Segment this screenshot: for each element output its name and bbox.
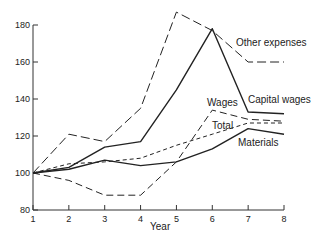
x-tick-label: 3 (102, 214, 107, 224)
x-tick-label: 5 (174, 214, 179, 224)
x-tick-label: 6 (210, 214, 215, 224)
x-tick-label: 4 (138, 214, 143, 224)
series-wages (33, 110, 284, 195)
y-tick-label: 140 (15, 94, 30, 104)
line-chart: 8010012014016018012345678 Other expenses… (0, 0, 323, 245)
x-tick-label: 2 (66, 214, 71, 224)
y-tick-label: 120 (15, 131, 30, 141)
label-materials: Materials (238, 137, 279, 148)
x-tick-label: 7 (246, 214, 251, 224)
y-tick-label: 180 (15, 20, 30, 30)
x-tick-label: 1 (30, 214, 35, 224)
y-tick-label: 160 (15, 57, 30, 67)
x-axis-title: Year (150, 221, 171, 232)
x-tick-label: 8 (281, 214, 286, 224)
label-other-expenses: Other expenses (236, 37, 307, 48)
label-wages: Wages (207, 97, 238, 108)
y-tick-label: 80 (20, 205, 30, 215)
series-labels: Other expenses Capital wages Wages Total… (150, 37, 311, 232)
axes: 8010012014016018012345678 (15, 20, 287, 224)
y-tick-label: 100 (15, 168, 30, 178)
label-capital-wages: Capital wages (248, 94, 311, 105)
label-total: Total (212, 120, 233, 131)
series-total (33, 123, 284, 173)
